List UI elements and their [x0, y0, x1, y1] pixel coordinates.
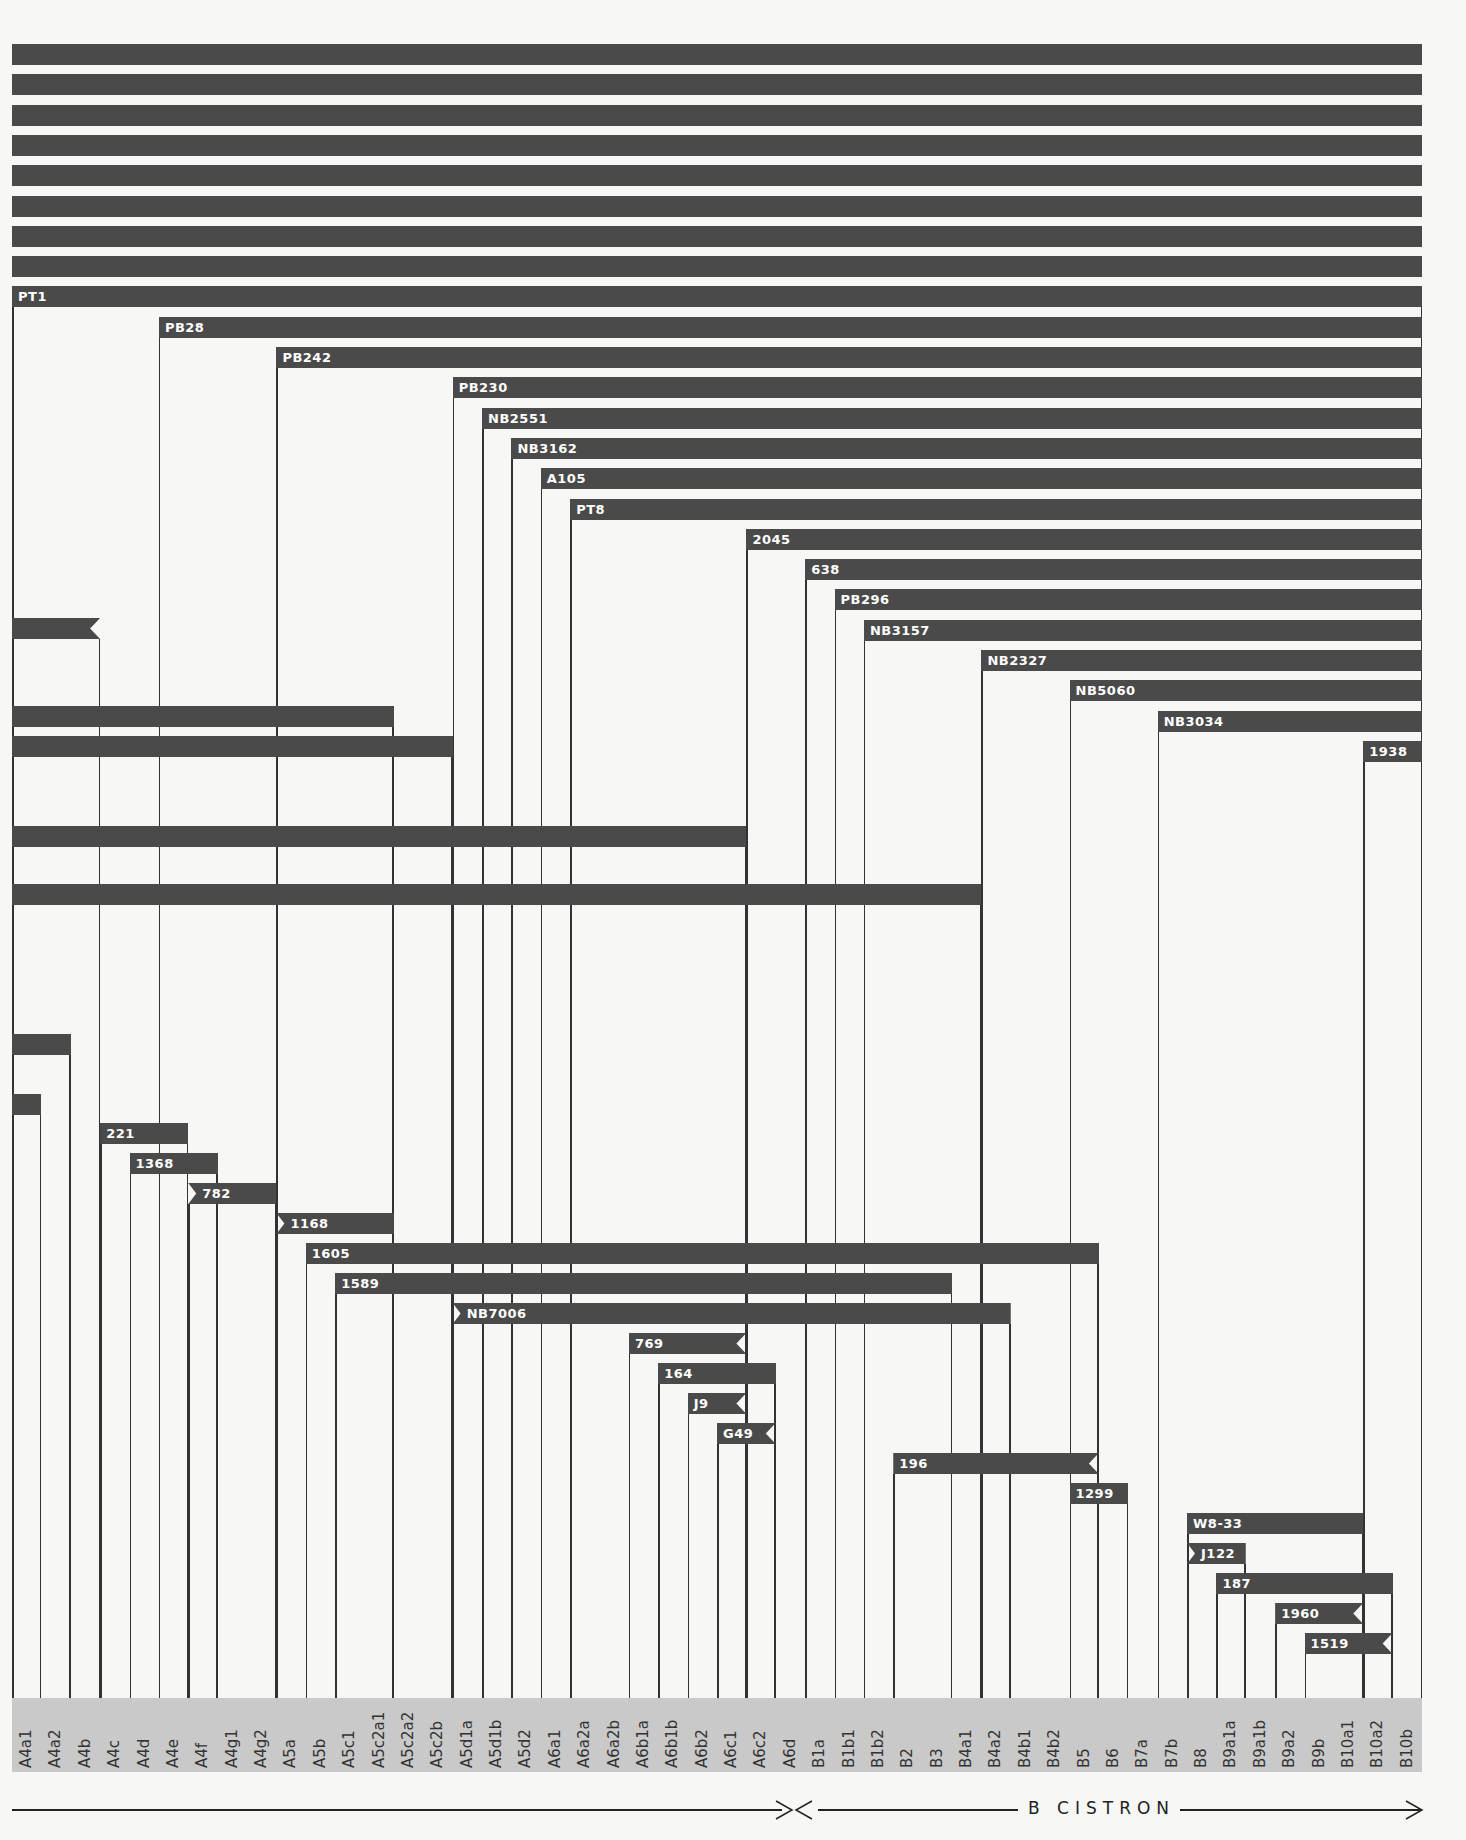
deletion-bar — [12, 1034, 71, 1055]
deletion-bar: 221 — [100, 1123, 188, 1144]
deletion-boundary-line — [482, 429, 484, 1772]
column-label: A5d1a — [453, 1700, 483, 1770]
column-label: B7b — [1158, 1700, 1188, 1770]
column-label: A6b1b — [658, 1700, 688, 1770]
deletion-bar — [12, 105, 1422, 126]
deletion-bar: NB2327 — [981, 650, 1422, 671]
deletion-bar — [12, 706, 394, 727]
column-label: B9a2 — [1275, 1700, 1305, 1770]
column-label: A5c2b — [423, 1700, 453, 1770]
column-label: A5c2a2 — [394, 1700, 424, 1770]
column-label: B1b1 — [835, 1700, 865, 1770]
column-label: B8 — [1187, 1700, 1217, 1770]
deletion-boundary-line — [188, 1204, 190, 1772]
deletion-bar — [12, 256, 1422, 277]
deletion-boundary-line — [306, 1264, 308, 1772]
column-label: A4b — [71, 1700, 101, 1770]
column-label: A6d — [776, 1700, 806, 1770]
column-label: A4e — [159, 1700, 189, 1770]
deletion-bar: 164 — [658, 1363, 776, 1384]
column-label: B4a2 — [981, 1700, 1011, 1770]
deletion-bar: A105 — [541, 468, 1422, 489]
column-label: A4g2 — [247, 1700, 277, 1770]
deletion-bar: NB3157 — [864, 620, 1422, 641]
column-label: B6 — [1099, 1700, 1129, 1770]
column-label: B9a1a — [1216, 1700, 1246, 1770]
deletion-bar: NB3162 — [511, 438, 1422, 459]
deletion-bar: 1168 — [276, 1213, 394, 1234]
deletion-bar: 2045 — [746, 529, 1422, 550]
column-label: B10b — [1393, 1700, 1423, 1770]
column-label: A6b1a — [629, 1700, 659, 1770]
b-cistron-line-left — [818, 1809, 1018, 1811]
deletion-boundary-line — [12, 1115, 14, 1772]
deletion-boundary-line — [392, 1234, 394, 1772]
column-label: A6a2b — [600, 1700, 630, 1770]
column-label: B7a — [1128, 1700, 1158, 1770]
deletion-bar: PB28 — [159, 317, 1422, 338]
deletion-bar: 1960 — [1275, 1603, 1363, 1624]
deletion-bar — [12, 1094, 41, 1115]
deletion-bar: 1368 — [130, 1153, 218, 1174]
column-label: B9a1b — [1246, 1700, 1276, 1770]
column-label: A4c — [100, 1700, 130, 1770]
deletion-boundary-line — [1421, 762, 1423, 1772]
column-label: B2 — [893, 1700, 923, 1770]
deletion-bar: 187 — [1216, 1573, 1392, 1594]
column-label: B10a2 — [1363, 1700, 1393, 1770]
column-label: A4a1 — [12, 1700, 42, 1770]
column-label: A4f — [188, 1700, 218, 1770]
deletion-bar — [12, 226, 1422, 247]
deletion-bar: 638 — [805, 559, 1422, 580]
deletion-boundary-line — [216, 1174, 218, 1772]
deletion-bar: PT8 — [570, 499, 1422, 520]
deletion-bar: 1938 — [1363, 741, 1422, 762]
deletion-bar: 1299 — [1070, 1483, 1129, 1504]
deletion-boundary-line — [980, 905, 982, 1772]
deletion-bar — [12, 74, 1422, 95]
column-label: A5d1b — [482, 1700, 512, 1770]
deletion-boundary-line — [130, 1174, 132, 1772]
deletion-boundary-line — [805, 580, 807, 1772]
column-label: A5c1 — [335, 1700, 365, 1770]
column-label: A6a1 — [541, 1700, 571, 1770]
deletion-bar: 1589 — [335, 1273, 952, 1294]
deletion-boundary-line — [69, 1055, 71, 1772]
column-label: A5d2 — [511, 1700, 541, 1770]
deletion-bar: NB3034 — [1158, 711, 1422, 732]
column-label: B9b — [1305, 1700, 1335, 1770]
cistron-axis: B CISTRON — [12, 1798, 1422, 1822]
column-label: A4d — [130, 1700, 160, 1770]
cistron-boundary-arrows-icon — [774, 1798, 824, 1822]
deletion-bar: J122 — [1187, 1543, 1246, 1564]
deletion-boundary-line — [981, 671, 983, 1772]
column-label: B4a1 — [952, 1700, 982, 1770]
deletion-bar: NB2551 — [482, 408, 1422, 429]
deletion-bar: NB7006 — [453, 1303, 1011, 1324]
b-cistron-label: B CISTRON — [1028, 1798, 1175, 1818]
deletion-bar: 1605 — [306, 1243, 1099, 1264]
deletion-boundary-line — [511, 459, 513, 1772]
a-cistron-arrow-line — [12, 1809, 782, 1811]
deletion-bar: 769 — [629, 1333, 747, 1354]
deletion-boundary-line — [100, 1144, 102, 1772]
deletion-boundary-line — [746, 550, 748, 1772]
column-label: B1a — [805, 1700, 835, 1770]
deletion-bar — [12, 135, 1422, 156]
column-label: B1b2 — [864, 1700, 894, 1770]
deletion-boundary-line — [864, 641, 866, 1772]
deletion-boundary-line — [570, 520, 572, 1773]
deletion-bar: PB230 — [453, 377, 1422, 398]
column-label: A6b2 — [688, 1700, 718, 1770]
column-label: A6a2a — [570, 1700, 600, 1770]
column-label: B3 — [923, 1700, 953, 1770]
b-cistron-line-right — [1180, 1809, 1420, 1811]
deletion-bar: PT1 — [12, 286, 1422, 307]
deletion-boundary-line — [276, 1234, 278, 1772]
deletion-boundary-line — [541, 489, 543, 1772]
deletion-bar: NB5060 — [1070, 680, 1423, 701]
deletion-bar: PB242 — [276, 347, 1422, 368]
column-label: B4b1 — [1011, 1700, 1041, 1770]
column-label: A4g1 — [218, 1700, 248, 1770]
deletion-bar: PB296 — [835, 589, 1423, 610]
